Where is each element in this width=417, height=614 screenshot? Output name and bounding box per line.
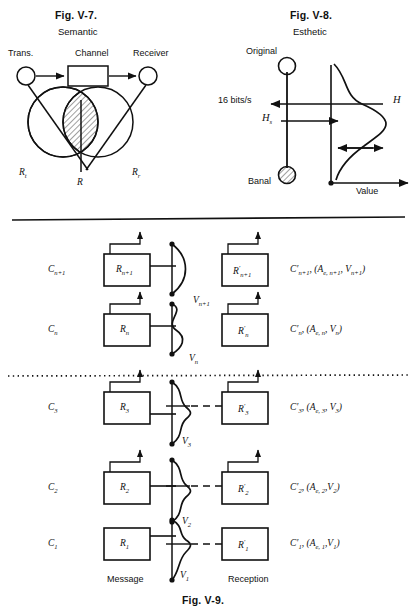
value-axis-origin-dot xyxy=(328,180,333,185)
row-4-dot-bottom xyxy=(169,577,174,582)
row-2-box-left-label: R3 xyxy=(120,402,129,414)
row-3-level-label: C2 xyxy=(48,482,58,494)
row-4-dot-top xyxy=(169,517,174,522)
row-0-elbow-right-up xyxy=(228,232,258,254)
row-3-curve xyxy=(172,460,191,522)
row-0-dot-top xyxy=(169,241,174,246)
row-0-box-right-label: R′n+1 xyxy=(233,264,251,278)
row-1-curve xyxy=(172,304,183,354)
fig-v8-drawing xyxy=(0,0,417,210)
original-node xyxy=(279,58,296,75)
row-1-box-left-label: Rn xyxy=(120,324,129,336)
row-3-expression: C′2, (Ae, 2,V2) xyxy=(290,482,340,494)
row-0-v-label: Vn+1 xyxy=(193,295,210,307)
row-2-curve xyxy=(172,382,191,444)
row-1-elbow-left-up xyxy=(110,292,140,314)
row-3-elbow-left-up xyxy=(110,450,140,472)
fig-v9-column-reception: Reception xyxy=(228,574,269,584)
row-3-dot-top xyxy=(169,457,174,462)
row-1-dot-top xyxy=(169,301,174,306)
figure-page: Fig. V-7. Semantic Trans. Channel Receiv… xyxy=(0,0,417,614)
fig-v9-caption: Fig. V-9. xyxy=(182,594,224,606)
h-curve-path xyxy=(334,64,386,180)
row-4-level-label: C1 xyxy=(48,538,58,550)
fig-v9-column-message: Message xyxy=(107,574,144,584)
row-0-box-left-label: Rn+1 xyxy=(116,264,133,276)
row-2-box-right-label: R′3 xyxy=(238,402,249,416)
row-2-dot-top xyxy=(169,379,174,384)
row-0-level-label: Cn+1 xyxy=(48,264,65,276)
row-1-elbow-right-up xyxy=(228,292,258,314)
row-1-level-label: Cn xyxy=(48,324,58,336)
row-3-box-left-label: R2 xyxy=(120,482,129,494)
row-2-elbow-left-up xyxy=(110,370,140,392)
row-3-elbow-right-up xyxy=(228,450,258,472)
row-1-dot-bottom xyxy=(169,351,174,356)
row-4-v-label: V1 xyxy=(180,570,189,582)
row-0-curve xyxy=(172,244,186,294)
row-2-v-label: V3 xyxy=(182,436,191,448)
row-1-box-right-label: R′n xyxy=(238,324,249,338)
row-1-v-label: Vn xyxy=(189,353,198,365)
banal-node xyxy=(279,167,296,184)
row-2-dot-bottom xyxy=(169,441,174,446)
row-2-level-label: C3 xyxy=(48,402,58,414)
row-3-v-label: V2 xyxy=(182,516,191,528)
row-0-expression: C′n+1, (Ae, n+1, Vn+1) xyxy=(290,264,365,276)
row-3-box-right-label: R′2 xyxy=(238,482,249,496)
row-4-box-left-label: R1 xyxy=(120,538,129,550)
row-4-expression: C′1, (Ae, 1,V1) xyxy=(290,538,340,550)
row-0-dot-bottom xyxy=(169,291,174,296)
row-1-expression: C′n, (Ae, n, Vn) xyxy=(290,324,342,336)
row-0-elbow-left-up xyxy=(110,232,140,254)
row-2-elbow-right-up xyxy=(228,370,258,392)
row-4-box-right-label: R′1 xyxy=(238,538,249,552)
row-2-expression: C′3, (Ae, 3, V3) xyxy=(290,402,342,414)
